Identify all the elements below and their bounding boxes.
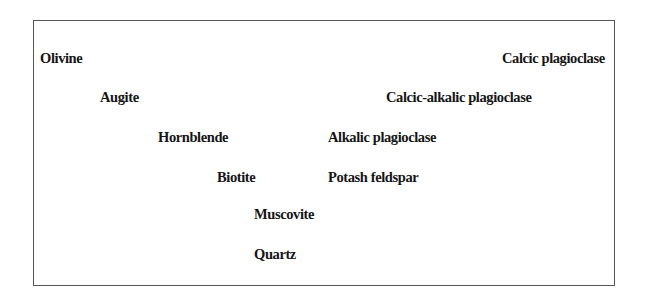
label-olivine: Olivine	[40, 51, 82, 66]
label-calcic-alkalic-plagioclase: Calcic-alkalic plagioclase	[386, 90, 531, 105]
label-potash-feldspar: Potash feldspar	[328, 170, 418, 185]
label-calcic-plagioclase: Calcic plagioclase	[502, 51, 605, 66]
label-hornblende: Hornblende	[158, 130, 228, 145]
label-muscovite: Muscovite	[254, 207, 314, 222]
label-alkalic-plagioclase: Alkalic plagioclase	[328, 130, 436, 145]
label-augite: Augite	[100, 90, 139, 105]
label-quartz: Quartz	[254, 247, 296, 262]
label-biotite: Biotite	[217, 170, 255, 185]
